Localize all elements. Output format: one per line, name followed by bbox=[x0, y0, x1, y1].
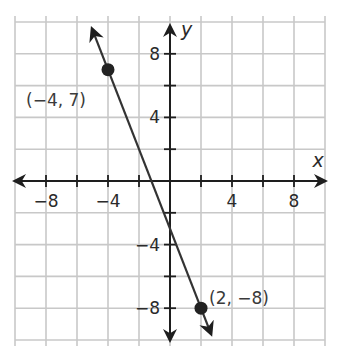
point-label: (2, −8) bbox=[209, 288, 269, 308]
x-axis-label: x bbox=[312, 149, 325, 171]
y-tick-label: 8 bbox=[149, 44, 160, 64]
x-tick-label: 8 bbox=[289, 191, 300, 211]
data-point bbox=[102, 63, 115, 76]
x-tick-label: −8 bbox=[33, 191, 58, 211]
y-tick-label: −4 bbox=[135, 235, 160, 255]
axes bbox=[19, 30, 321, 336]
x-tick-label: 4 bbox=[227, 191, 238, 211]
y-axis-label: y bbox=[180, 18, 193, 40]
point-label: (−4, 7) bbox=[26, 90, 86, 110]
y-tick-label: 4 bbox=[149, 107, 160, 127]
y-tick-label: −8 bbox=[135, 298, 160, 318]
data-point bbox=[195, 302, 208, 315]
coordinate-graph: −8−44884−4−8 x y (−4, 7)(2, −8) bbox=[0, 0, 340, 359]
x-tick-label: −4 bbox=[95, 191, 120, 211]
